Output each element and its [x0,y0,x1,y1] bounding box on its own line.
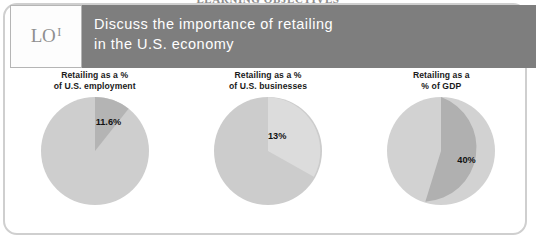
lo-badge-label: LO [31,26,55,47]
pie-graphic-employment: 11.6% [39,95,151,207]
pie-charts-row: Retailing as a % of U.S. employment 11.6… [8,70,528,235]
pie-value-label: 11.6% [96,117,122,127]
pie-chart-caption: Retailing as a % of U.S. employment [54,70,136,92]
pie-caption-line2: of U.S. businesses [229,81,307,92]
header-title-line2: in the U.S. economy [94,34,333,54]
pie-chart-caption: Retailing as a % of U.S. businesses [229,70,307,92]
pie-svg-gdp [385,95,497,207]
pie-svg-employment [39,95,151,207]
pie-svg-businesses [212,95,324,207]
pie-graphic-businesses: 13% [212,95,324,207]
header-title: Discuss the importance of retailing in t… [94,14,333,54]
pie-chart-gdp: Retailing as a % of GDP 40% [356,70,526,207]
pie-caption-line2: of U.S. employment [54,81,136,92]
pie-chart-caption: Retailing as a % of GDP [413,70,470,92]
pie-caption-line1: Retailing as a % [229,70,307,81]
pie-chart-businesses: Retailing as a % of U.S. businesses 13% [183,70,353,207]
pie-chart-employment: Retailing as a % of U.S. employment 11.6… [10,70,180,207]
pie-caption-line2: % of GDP [413,81,470,92]
pie-caption-line1: Retailing as a % [54,70,136,81]
pie-caption-line1: Retailing as a [413,70,470,81]
pie-graphic-gdp: 40% [385,95,497,207]
lo-badge-number: I [57,25,61,39]
pie-value-label: 13% [268,131,286,141]
pie-value-label: 40% [457,155,475,165]
learning-objective-header: LOI Discuss the importance of retailing … [10,5,536,68]
lo-badge: LOI [10,5,82,68]
header-title-line1: Discuss the importance of retailing [94,14,333,34]
